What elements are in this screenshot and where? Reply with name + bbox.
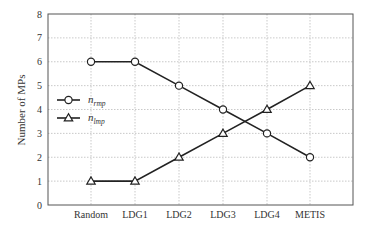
- circle-marker-icon: [87, 58, 94, 65]
- x-tick-label: LDG1: [122, 209, 148, 220]
- circle-marker-icon: [175, 82, 182, 89]
- line-chart: 012345678 RandomLDG1LDG2LDG3LDG4METIS Nu…: [0, 0, 371, 230]
- grid-lines: [48, 14, 353, 205]
- y-axis-title: Number of MPs: [15, 75, 27, 146]
- triangle-marker-icon: [306, 81, 314, 88]
- legend-item-n_lmp: nlmp: [57, 111, 105, 126]
- y-tick-label: 6: [37, 56, 42, 67]
- y-tick-label: 1: [37, 176, 42, 187]
- x-tick-label: LDG3: [210, 209, 236, 220]
- legend-label: nlmp: [88, 111, 105, 126]
- y-tick-label: 3: [37, 128, 42, 139]
- circle-marker-icon: [263, 130, 270, 137]
- circle-marker-icon: [65, 96, 72, 103]
- x-tick-label: METIS: [295, 209, 325, 220]
- y-tick-label: 7: [37, 32, 42, 43]
- y-tick-label: 0: [37, 200, 42, 211]
- x-axis-ticks: RandomLDG1LDG2LDG3LDG4METIS: [74, 209, 325, 220]
- legend-item-n_rmp: nrmp: [57, 93, 106, 108]
- x-tick-label: Random: [74, 209, 108, 220]
- y-axis-ticks: 012345678: [37, 9, 42, 211]
- y-tick-label: 2: [37, 152, 42, 163]
- triangle-marker-icon: [219, 129, 227, 136]
- data-series: [87, 58, 314, 184]
- y-tick-label: 4: [37, 104, 42, 115]
- x-tick-label: LDG2: [166, 209, 192, 220]
- circle-marker-icon: [219, 106, 226, 113]
- x-tick-label: LDG4: [254, 209, 280, 220]
- triangle-marker-icon: [175, 153, 183, 160]
- circle-marker-icon: [131, 58, 138, 65]
- circle-marker-icon: [306, 154, 313, 161]
- y-tick-label: 5: [37, 80, 42, 91]
- triangle-marker-icon: [263, 105, 271, 112]
- y-tick-label: 8: [37, 9, 42, 20]
